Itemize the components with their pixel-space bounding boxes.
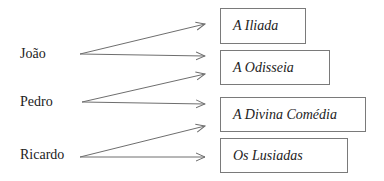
person-ricardo: Ricardo — [20, 147, 64, 163]
diagram-canvas: João Pedro Ricardo A Iliada A Odisseia A… — [0, 0, 384, 181]
book-box-odisseia: A Odisseia — [220, 50, 330, 85]
person-pedro: Pedro — [20, 94, 53, 110]
arrow-joao-2 — [80, 54, 205, 56]
arrow-ricardo-1 — [80, 126, 205, 157]
arrow-pedro-2 — [82, 102, 205, 104]
book-box-lusiadas: Os Lusiadas — [220, 138, 348, 173]
person-joao: João — [20, 46, 46, 62]
book-label-odisseia: A Odisseia — [233, 60, 294, 76]
arrow-pedro-1 — [82, 74, 205, 102]
book-label-iliada: A Iliada — [233, 18, 278, 34]
book-box-divina-comedia: A Divina Comédia — [220, 97, 366, 132]
arrow-joao-1 — [80, 24, 205, 54]
book-label-lusiadas: Os Lusiadas — [233, 148, 303, 164]
book-label-divina-comedia: A Divina Comédia — [233, 107, 337, 123]
book-box-iliada: A Iliada — [220, 8, 306, 44]
